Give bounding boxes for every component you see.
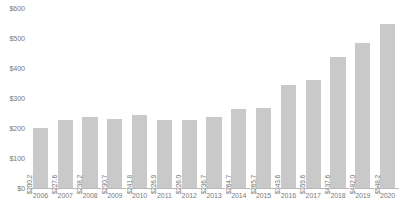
x-axis-tick-label: 2017 (301, 192, 326, 199)
x-axis: 2006200720082009201020112012201320142015… (28, 188, 400, 204)
bar[interactable] (306, 80, 321, 188)
x-axis-tick-label: 2018 (326, 192, 351, 199)
x-axis-tick-rule (153, 188, 176, 189)
y-axis: $0$100$200$300$400$500$600 (0, 0, 28, 216)
x-axis-tick-rule (327, 188, 350, 189)
x-axis-tick-rule (29, 188, 52, 189)
x-axis-tick-rule (376, 188, 399, 189)
x-axis-tick-rule (54, 188, 77, 189)
y-axis-tick-label: $600 (9, 4, 25, 13)
bar-chart: $0$100$200$300$400$500$600 $200.2$227.6$… (0, 0, 400, 216)
y-axis-tick-label: $0 (17, 184, 25, 193)
bar-slot: $241.8 (132, 8, 147, 188)
x-axis-tick-label: 2012 (177, 192, 202, 199)
bar-slot: $482.0 (355, 8, 370, 188)
bar[interactable] (281, 85, 296, 188)
bar-slot: $359.6 (306, 8, 321, 188)
x-axis-tick-rule (252, 188, 275, 189)
x-axis-tick: 2014 (226, 188, 251, 199)
x-axis-tick-label: 2010 (127, 192, 152, 199)
x-axis-tick-label: 2015 (251, 192, 276, 199)
x-axis-tick-label: 2020 (375, 192, 400, 199)
x-axis-tick-label: 2009 (102, 192, 127, 199)
x-axis-tick: 2015 (251, 188, 276, 199)
bar-slot: $226.9 (157, 8, 172, 188)
x-axis-tick-label: 2006 (28, 192, 53, 199)
y-axis-tick-label: $100 (9, 154, 25, 163)
x-axis-tick: 2018 (326, 188, 351, 199)
x-axis-tick: 2012 (177, 188, 202, 199)
bar[interactable] (380, 24, 395, 188)
bar-slot: $230.7 (107, 8, 122, 188)
x-axis-tick-rule (203, 188, 226, 189)
x-axis-tick-rule (128, 188, 151, 189)
x-axis-tick-rule (277, 188, 300, 189)
bar-slot: $265.7 (256, 8, 271, 188)
x-axis-tick-label: 2013 (202, 192, 227, 199)
x-axis-tick: 2009 (102, 188, 127, 199)
x-axis-tick-label: 2016 (276, 192, 301, 199)
y-axis-tick-label: $300 (9, 94, 25, 103)
x-axis-tick-rule (178, 188, 201, 189)
bar-slot: $227.6 (58, 8, 73, 188)
y-axis-tick-label: $400 (9, 64, 25, 73)
x-axis-tick: 2007 (53, 188, 78, 199)
x-axis-tick-rule (302, 188, 325, 189)
y-axis-tick-label: $200 (9, 124, 25, 133)
bar-slot: $264.7 (231, 8, 246, 188)
x-axis-tick-label: 2019 (350, 192, 375, 199)
bar[interactable] (330, 57, 345, 188)
x-axis-tick: 2006 (28, 188, 53, 199)
x-axis-tick: 2017 (301, 188, 326, 199)
x-axis-tick-label: 2008 (78, 192, 103, 199)
bar-slot: $343.6 (281, 8, 296, 188)
y-axis-tick-label: $500 (9, 34, 25, 43)
x-axis-tick-label: 2014 (226, 192, 251, 199)
x-axis-tick-label: 2007 (53, 192, 78, 199)
bar-slot: $200.2 (33, 8, 48, 188)
x-axis-tick: 2020 (375, 188, 400, 199)
x-axis-tick-rule (79, 188, 102, 189)
x-axis-tick-label: 2011 (152, 192, 177, 199)
bar-slot: $238.2 (82, 8, 97, 188)
x-axis-tick: 2016 (276, 188, 301, 199)
x-axis-tick-rule (227, 188, 250, 189)
bar[interactable] (355, 43, 370, 188)
x-axis-tick: 2008 (78, 188, 103, 199)
bar-slot: $548.2 (380, 8, 395, 188)
x-axis-tick: 2010 (127, 188, 152, 199)
x-axis-tick: 2019 (350, 188, 375, 199)
x-axis-tick-rule (103, 188, 126, 189)
plot-area: $200.2$227.6$238.2$230.7$241.8$226.9$226… (28, 8, 400, 188)
x-axis-tick: 2013 (202, 188, 227, 199)
bar-slot: $226.0 (182, 8, 197, 188)
bar-slot: $437.6 (330, 8, 345, 188)
x-axis-tick-rule (351, 188, 374, 189)
x-axis-tick: 2011 (152, 188, 177, 199)
bar-slot: $236.7 (206, 8, 221, 188)
